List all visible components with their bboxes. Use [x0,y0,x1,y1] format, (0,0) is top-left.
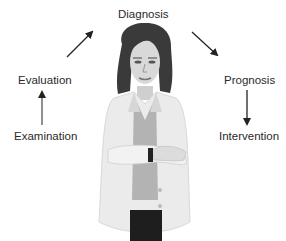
step-intervention: Intervention [219,131,279,143]
step-examination: Examination [14,131,77,143]
step-prognosis: Prognosis [224,75,275,87]
step-evaluation: Evaluation [18,75,72,87]
arrow-evaluation-to-diagnosis [67,32,92,57]
step-diagnosis: Diagnosis [118,9,169,21]
arrow-diagnosis-to-prognosis [192,32,217,55]
flow-arrows [0,0,286,241]
